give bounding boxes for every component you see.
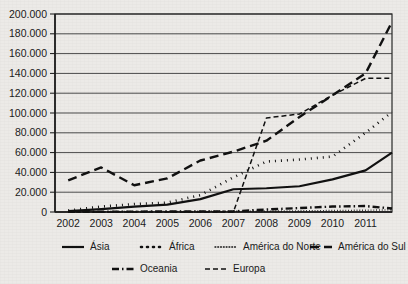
y-axis-tick-label: 100.000 xyxy=(9,107,47,119)
legend-label-america-do-norte: América do Norte xyxy=(243,241,321,252)
x-axis-tick-label: 2002 xyxy=(57,217,81,229)
x-axis-tick-label: 2010 xyxy=(321,217,345,229)
y-axis-tick-label: 200.000 xyxy=(9,8,47,20)
y-axis-tick-label: 160.000 xyxy=(9,47,47,59)
line-chart: 020.00040.00060.00080.000100.000120.0001… xyxy=(0,0,408,284)
x-axis-tick-label: 2007 xyxy=(222,217,246,229)
x-axis-tick-label: 2011 xyxy=(354,217,377,229)
x-axis-tick-label: 2003 xyxy=(90,217,114,229)
x-axis-tick-label: 2008 xyxy=(255,217,279,229)
legend-label-oceania: Oceania xyxy=(140,263,178,274)
chart-container: 020.00040.00060.00080.000100.000120.0001… xyxy=(0,0,408,284)
y-axis-tick-label: 80.000 xyxy=(15,126,47,138)
y-axis-tick-label: 40.000 xyxy=(15,166,47,178)
x-axis-tick-label: 2004 xyxy=(123,217,147,229)
legend-label-africa: África xyxy=(169,240,195,252)
x-axis-tick-label: 2006 xyxy=(189,217,213,229)
y-axis-tick-label: 0 xyxy=(41,206,47,218)
y-axis-tick-label: 120.000 xyxy=(9,87,47,99)
y-axis-tick-label: 20.000 xyxy=(15,186,47,198)
y-axis-tick-label: 60.000 xyxy=(15,146,47,158)
legend-label-asia: Ásia xyxy=(90,240,110,252)
y-axis-tick-label: 140.000 xyxy=(9,67,47,79)
legend-label-america-do-sul: América do Sul xyxy=(338,241,406,252)
y-axis-tick-labels: 020.00040.00060.00080.000100.000120.0001… xyxy=(9,8,47,218)
x-axis-tick-label: 2005 xyxy=(156,217,180,229)
x-axis-tick-label: 2009 xyxy=(288,217,312,229)
y-axis-tick-label: 180.000 xyxy=(9,27,47,39)
legend-label-europa: Europa xyxy=(233,263,266,274)
